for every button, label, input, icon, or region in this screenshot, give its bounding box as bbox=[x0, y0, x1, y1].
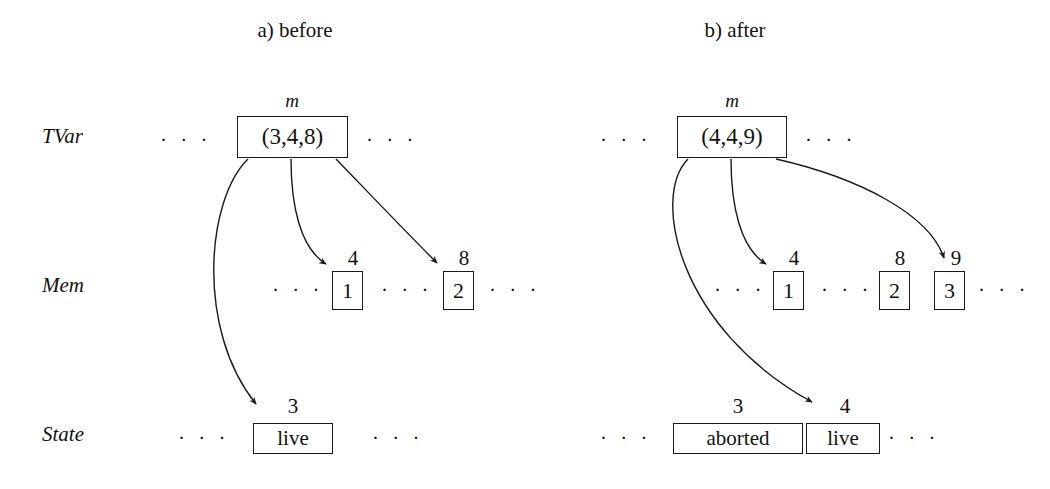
row-label-state: State bbox=[42, 422, 84, 447]
panel-b-state-value-0: aborted bbox=[707, 426, 770, 451]
arrow-a-tvar-to-mem1 bbox=[291, 159, 326, 264]
panel-b-tvar-box[interactable]: (4,4,9) bbox=[677, 116, 787, 158]
tvar-mem-state-diagram: a) before TVar Mem State m · · · (3,4,8)… bbox=[0, 0, 1050, 489]
panel-a-tvar-ellipsis-left: · · · bbox=[160, 128, 211, 153]
panel-a-mem-ellipsis-mid: · · · bbox=[381, 278, 432, 303]
panel-a-tvar-ellipsis-right: · · · bbox=[366, 128, 417, 153]
panel-a-state-index-0: 3 bbox=[278, 394, 308, 419]
arrow-b-tvar-to-mem1 bbox=[731, 159, 766, 264]
arrow-layer bbox=[0, 0, 1050, 489]
panel-b-mem-ellipsis-right: · · · bbox=[978, 278, 1029, 303]
panel-b-mem-box-0[interactable]: 1 bbox=[773, 271, 804, 310]
panel-a-mem-ellipsis-right: · · · bbox=[489, 278, 540, 303]
panel-b-mem-index-0: 4 bbox=[779, 246, 809, 271]
row-label-tvar: TVar bbox=[42, 124, 83, 149]
panel-b-tvar-marker: m bbox=[702, 90, 762, 112]
panel-b-tvar-value: (4,4,9) bbox=[701, 124, 762, 150]
panel-b-mem-ellipsis-mid: · · · bbox=[821, 278, 872, 303]
panel-a-mem-index-1: 8 bbox=[449, 246, 479, 271]
panel-b-mem-ellipsis-left: · · · bbox=[714, 278, 765, 303]
panel-b-state-ellipsis-right: · · · bbox=[888, 426, 939, 451]
panel-a-state-box-0[interactable]: live bbox=[253, 423, 333, 454]
panel-b-state-ellipsis-left: · · · bbox=[600, 426, 651, 451]
panel-a-mem-ellipsis-left: · · · bbox=[272, 278, 323, 303]
panel-b-state-index-1: 4 bbox=[830, 394, 860, 419]
row-label-mem: Mem bbox=[42, 273, 84, 298]
panel-a-caption: a) before bbox=[220, 18, 370, 43]
panel-b-mem-value-2: 3 bbox=[944, 278, 955, 304]
panel-b-mem-value-1: 2 bbox=[889, 278, 900, 304]
panel-a-mem-value-0: 1 bbox=[342, 278, 353, 304]
panel-a-mem-box-0[interactable]: 1 bbox=[332, 271, 363, 310]
panel-b-mem-box-2[interactable]: 3 bbox=[934, 271, 965, 310]
panel-b-state-box-1[interactable]: live bbox=[806, 423, 880, 454]
panel-b-caption: b) after bbox=[660, 18, 810, 43]
panel-b-mem-index-1: 8 bbox=[885, 246, 915, 271]
panel-a-state-value-0: live bbox=[277, 426, 309, 451]
panel-b-tvar-ellipsis-left: · · · bbox=[600, 128, 651, 153]
panel-b-mem-box-1[interactable]: 2 bbox=[879, 271, 910, 310]
panel-a-mem-value-1: 2 bbox=[453, 278, 464, 304]
arrow-a-tvar-to-state bbox=[214, 159, 256, 404]
panel-b-tvar-ellipsis-right: · · · bbox=[805, 128, 856, 153]
panel-a-tvar-box[interactable]: (3,4,8) bbox=[237, 116, 348, 158]
panel-b-state-box-0[interactable]: aborted bbox=[673, 423, 803, 454]
panel-b-state-index-0: 3 bbox=[723, 394, 753, 419]
panel-b-state-value-1: live bbox=[827, 426, 859, 451]
panel-a-tvar-value: (3,4,8) bbox=[262, 124, 323, 150]
arrow-b-tvar-to-mem3 bbox=[776, 159, 944, 258]
panel-a-mem-index-0: 4 bbox=[338, 246, 368, 271]
panel-b-mem-value-0: 1 bbox=[783, 278, 794, 304]
panel-a-tvar-marker: m bbox=[262, 90, 322, 112]
panel-a-state-ellipsis-left: · · · bbox=[178, 426, 229, 451]
panel-a-state-ellipsis-right: · · · bbox=[372, 426, 423, 451]
panel-a-mem-box-1[interactable]: 2 bbox=[443, 271, 474, 310]
panel-b-mem-index-2: 9 bbox=[941, 246, 971, 271]
